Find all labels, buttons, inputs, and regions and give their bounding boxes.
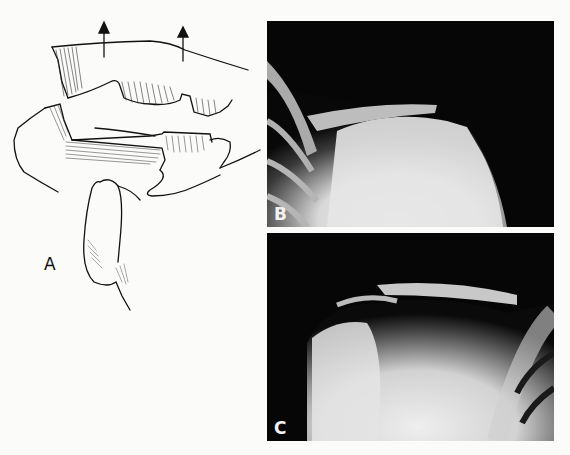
panel-b-xray: B <box>267 21 554 227</box>
panel-a-illustration: A <box>0 0 262 455</box>
panel-label-a: A <box>44 254 56 274</box>
panel-label-b: B <box>274 204 287 224</box>
xray-image-b <box>267 21 554 227</box>
panel-label-c: C <box>274 418 286 438</box>
panel-c-xray: C <box>267 233 554 441</box>
shoulder-drawing <box>0 0 262 455</box>
xray-image-c <box>267 233 554 441</box>
